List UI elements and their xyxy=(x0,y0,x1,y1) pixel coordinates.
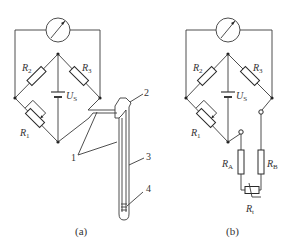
battery-icon xyxy=(51,54,65,142)
svg-text:Rt: Rt xyxy=(245,203,254,216)
svg-text:R3: R3 xyxy=(81,62,92,75)
svg-text:R1: R1 xyxy=(19,127,30,140)
panel-b: R2 R3 US R1 RA RB xyxy=(184,18,278,238)
potentiometer-r1 xyxy=(194,100,221,127)
caption-a: (a) xyxy=(75,225,88,238)
svg-text:RA: RA xyxy=(221,158,233,171)
svg-text:R3: R3 xyxy=(252,62,263,75)
resistor-rb xyxy=(258,150,264,174)
caption-b: (b) xyxy=(226,225,239,238)
svg-text:3: 3 xyxy=(146,151,151,162)
bridge-circuit-diagram: R2 R3 US R1 xyxy=(0,0,288,248)
galvanometer-icon xyxy=(216,18,240,42)
svg-text:1: 1 xyxy=(71,152,76,163)
svg-text:2: 2 xyxy=(144,87,149,98)
battery-icon xyxy=(221,54,235,142)
svg-text:4: 4 xyxy=(146,183,151,194)
svg-text:RB: RB xyxy=(266,158,278,171)
panel-a: R2 R3 US R1 xyxy=(13,18,151,238)
terminal-b xyxy=(259,110,263,114)
terminal-a xyxy=(239,130,243,134)
svg-text:R1: R1 xyxy=(190,127,201,140)
svg-text:R2: R2 xyxy=(192,62,203,75)
svg-text:US: US xyxy=(66,90,77,103)
thermistor-rt xyxy=(245,187,259,194)
wire-left xyxy=(15,30,46,98)
potentiometer-r1 xyxy=(23,100,50,127)
svg-text:US: US xyxy=(236,90,247,103)
galvanometer-icon xyxy=(46,18,70,42)
svg-text:R2: R2 xyxy=(21,62,32,75)
resistor-ra xyxy=(238,150,244,174)
thermal-probe-icon xyxy=(115,98,131,220)
